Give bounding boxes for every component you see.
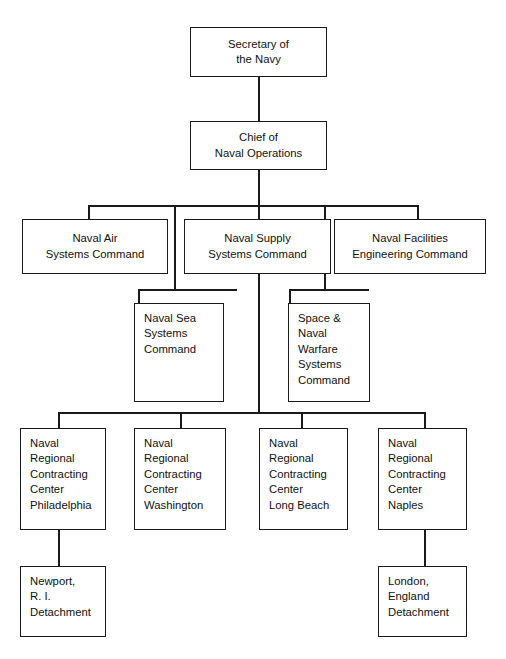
node-chief-of-naval-operations[interactable]: Chief of Naval Operations [190,121,327,170]
connector-drop-navfac [417,205,419,219]
node-secretary-of-the-navy[interactable]: Secretary of the Navy [190,27,327,77]
node-nrcc-long-beach[interactable]: Naval Regional Contracting Center Long B… [259,428,348,530]
connector-bus-navsea [138,289,237,291]
node-space-and-naval-warfare-systems-command[interactable]: Space & Naval Warfare Systems Command [288,303,370,402]
connector-secnav-to-cno [258,77,260,121]
connector-drop-navsea [138,289,140,303]
node-naval-sea-systems-command[interactable]: Naval Sea Systems Command [134,303,224,402]
connector-bus-spawar [289,289,369,291]
node-newport-ri-detachment[interactable]: Newport, R. I. Detachment [20,566,106,637]
node-naval-facilities-engineering-command[interactable]: Naval Facilities Engineering Command [334,219,486,274]
node-naval-supply-systems-command[interactable]: Naval Supply Systems Command [184,219,331,274]
connector-drop-nrcc-naples [424,412,426,428]
connector-drop-nrcc-long [301,412,303,428]
connector-drop-navair [88,205,90,219]
node-nrcc-naples[interactable]: Naval Regional Contracting Center Naples [378,428,467,530]
connector-drop-spawar [289,289,291,303]
connector-drop-nrcc-phil [58,412,60,428]
connector-bus-level5 [58,412,425,414]
node-london-england-detachment[interactable]: London, England Detachment [378,566,467,637]
connector-drop-navsea-upper [174,205,176,290]
connector-drop-nrcc-wash [180,412,182,428]
connector-cno-stem [258,170,260,206]
connector-drop-det-newport [58,530,60,566]
node-nrcc-washington[interactable]: Naval Regional Contracting Center Washin… [134,428,226,530]
connector-drop-det-london [424,530,426,566]
node-naval-air-systems-command[interactable]: Naval Air Systems Command [22,219,168,274]
node-nrcc-philadelphia[interactable]: Naval Regional Contracting Center Philad… [20,428,106,530]
org-chart: Secretary of the Navy Chief of Naval Ope… [0,0,506,659]
connector-bus-level3 [88,205,419,207]
